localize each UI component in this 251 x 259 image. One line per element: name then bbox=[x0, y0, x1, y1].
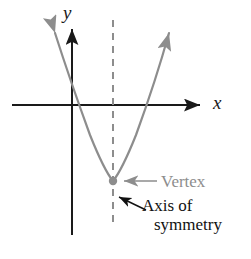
y-axis-label: y bbox=[63, 3, 71, 22]
parabola-figure: y x Vertex Axis ofsymmetry bbox=[0, 0, 251, 259]
axis-of-symmetry-line-2: symmetry bbox=[142, 215, 222, 234]
vertex-point bbox=[109, 177, 117, 185]
x-axis-label: x bbox=[213, 93, 221, 112]
axis-of-symmetry-line-1: Axis of bbox=[142, 196, 193, 215]
axis-of-symmetry-annotation-label: Axis ofsymmetry bbox=[142, 196, 222, 234]
vertex-annotation-label: Vertex bbox=[161, 172, 205, 191]
